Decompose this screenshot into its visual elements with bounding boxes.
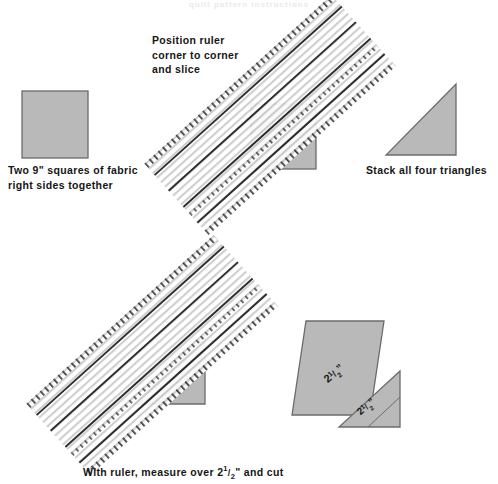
fabric-square-shape bbox=[22, 91, 88, 158]
caption-two-squares: Two 9" squares of fabric right sides tog… bbox=[8, 163, 183, 192]
quilting-ruler-bottom bbox=[26, 235, 278, 475]
measure-text-after: " and cut bbox=[235, 466, 283, 478]
triangle-stack-shape bbox=[386, 84, 456, 155]
step-3-stacked-triangles bbox=[386, 84, 456, 155]
step-1-fabric-square bbox=[22, 91, 88, 158]
step-5-cut-pieces: 21/2” 21/2” bbox=[292, 321, 400, 427]
caption-stack-triangles: Stack all four triangles bbox=[366, 163, 498, 178]
step-4-ruler-over-triangle bbox=[26, 235, 278, 475]
caption-position-ruler: Position ruler corner to corner and slic… bbox=[152, 33, 282, 77]
caption-measure-and-cut: With ruler, measure over 21/2" and cut bbox=[83, 462, 363, 484]
measure-text-before: With ruler, measure over bbox=[83, 466, 217, 478]
